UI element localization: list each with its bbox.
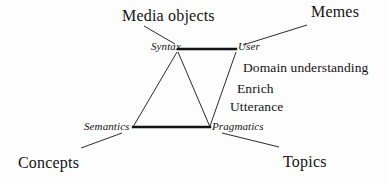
relation-label-enrich: Enrich	[237, 82, 274, 96]
outer-label-topics: Topics	[283, 154, 327, 170]
edge-syntax-semantics	[133, 52, 177, 127]
leader-line-topics	[222, 133, 279, 147]
node-label-user: User	[238, 41, 260, 52]
relation-label-utterance: Utterance	[230, 100, 283, 114]
outer-label-concepts: Concepts	[18, 155, 79, 171]
outer-label-media-objects: Media objects	[122, 8, 215, 24]
edge-user-pragmatics	[210, 52, 236, 126]
leader-line-concepts	[81, 133, 122, 148]
node-label-semantics: Semantics	[84, 121, 130, 132]
node-label-pragmatics: Pragmatics	[212, 121, 264, 132]
node-label-syntax: Syntax	[151, 41, 181, 52]
diagram-canvas: Syntax User Semantics Pragmatics Media o…	[0, 0, 390, 185]
relation-label-domain-understanding: Domain understanding	[243, 61, 368, 75]
edge-syntax-pragmatics	[178, 52, 210, 127]
outer-label-memes: Memes	[311, 4, 359, 20]
